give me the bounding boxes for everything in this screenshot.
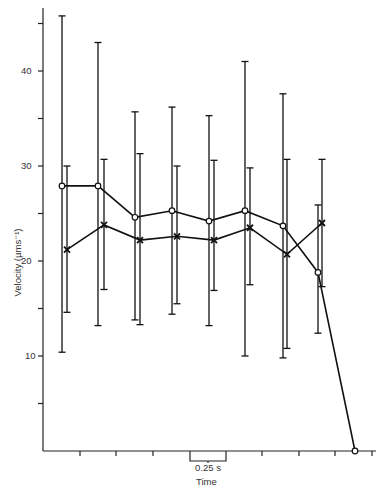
y-tick-label-10: 10 [25, 350, 36, 361]
y-tick-label-40: 40 [21, 65, 32, 76]
circle-marker [206, 218, 212, 224]
circle-marker [95, 183, 101, 189]
velocity-chart [0, 0, 380, 491]
circle-marker [315, 270, 321, 276]
circle-marker [59, 183, 65, 189]
time-scale-bar-label: 0.25 s [195, 462, 221, 473]
circle-marker [242, 208, 248, 214]
y-axis-label: Velocity (µms⁻¹) [12, 218, 23, 308]
x-axis-label: Time [196, 476, 217, 487]
circle-marker [280, 223, 286, 229]
circle-marker [169, 208, 175, 214]
circle-marker [352, 448, 358, 454]
y-tick-label-20: 20 [21, 255, 32, 266]
circle-marker [132, 215, 138, 221]
y-tick-label-30: 30 [21, 160, 32, 171]
